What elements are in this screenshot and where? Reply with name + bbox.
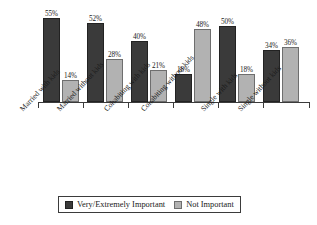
legend-item-not-important[interactable]: Not Important [174, 200, 234, 210]
bar-value-label: 14% [64, 72, 77, 80]
bar-group: 18% 48% [174, 10, 214, 102]
legend-item-very-extremely-important[interactable]: Very/Extremely Important [65, 200, 165, 210]
bar-value-label: 34% [265, 42, 278, 50]
bar-value-label: 55% [45, 10, 58, 18]
bar-value-label: 40% [133, 33, 146, 41]
x-axis-category-labels: Married with kids Married without kids C… [0, 103, 317, 189]
bar-value-label: 52% [89, 15, 102, 23]
bar-group: 34% 36% [262, 10, 302, 102]
bar-chart: 55% 14% 52% 28% 40% 21% [0, 0, 317, 225]
legend-swatch-icon [65, 201, 73, 209]
bar-value-label: 21% [152, 62, 165, 70]
legend: Very/Extremely Important Not Important [58, 196, 241, 213]
bar-value-label: 28% [108, 51, 121, 59]
bar-value-label: 50% [221, 18, 234, 26]
legend-label: Not Important [186, 200, 234, 210]
bar-value-label: 48% [196, 21, 209, 29]
legend-label: Very/Extremely Important [77, 200, 165, 210]
bar-value-label: 18% [240, 66, 253, 74]
legend-swatch-icon [174, 201, 182, 209]
bar-series-1[interactable]: 36% [282, 47, 299, 102]
bar-series-1[interactable]: 48% [194, 29, 211, 102]
bar-value-label: 36% [284, 39, 297, 47]
